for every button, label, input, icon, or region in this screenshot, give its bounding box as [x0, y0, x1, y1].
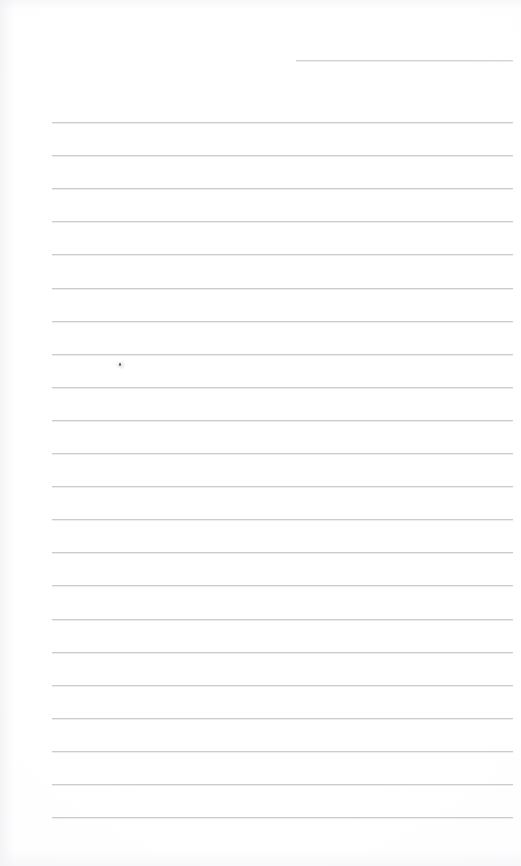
ruled-line-12 — [52, 486, 513, 487]
ruled-line-13 — [52, 519, 513, 520]
pen-dot — [119, 363, 121, 366]
ruled-line-6 — [52, 288, 513, 289]
ruled-line-9 — [52, 387, 513, 388]
ruled-line-16 — [52, 619, 513, 620]
ruled-line-17 — [52, 652, 513, 653]
ruled-line-19 — [52, 718, 513, 719]
ruled-line-20 — [52, 751, 513, 752]
scan-edge-shadow-left — [0, 0, 14, 866]
ruled-line-22 — [52, 817, 513, 818]
ruled-line-11 — [52, 453, 513, 454]
ruled-line-partial-top — [296, 60, 513, 61]
ruled-line-14 — [52, 552, 513, 553]
ruled-line-15 — [52, 585, 513, 586]
scan-edge-shadow-bottom — [0, 850, 521, 866]
ruled-line-10 — [52, 420, 513, 421]
ruled-line-21 — [52, 784, 513, 785]
ruled-line-1 — [52, 122, 513, 123]
ruled-line-3 — [52, 188, 513, 189]
ruled-line-18 — [52, 685, 513, 686]
ruled-line-8 — [52, 354, 513, 355]
ruled-line-2 — [52, 155, 513, 156]
paper-surface — [0, 0, 521, 866]
ruled-line-7 — [52, 321, 513, 322]
ruled-line-4 — [52, 221, 513, 222]
scan-edge-shadow-top — [0, 0, 521, 10]
notebook-page — [0, 0, 521, 866]
ruled-line-5 — [52, 254, 513, 255]
